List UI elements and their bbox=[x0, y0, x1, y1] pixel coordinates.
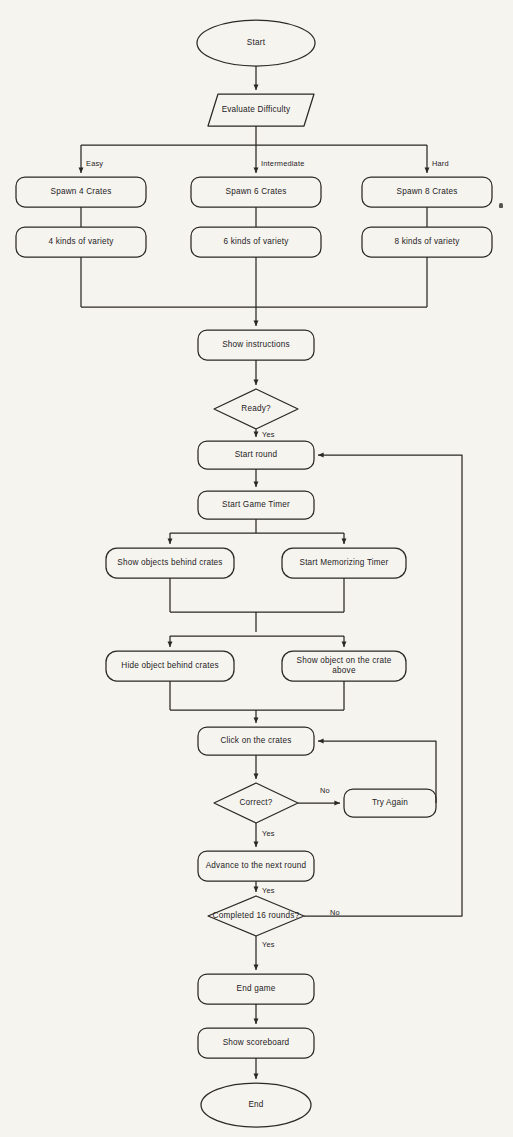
node-shape-correct bbox=[214, 783, 298, 823]
edge-join2 bbox=[170, 681, 344, 710]
node-shape-variety4 bbox=[16, 227, 146, 257]
flowchart-canvas: Start Evaluate Difficulty Spawn 4 Crates… bbox=[0, 0, 513, 1137]
edge-completed-no-loop bbox=[304, 455, 462, 916]
node-shape-scoreboard bbox=[198, 1028, 314, 1058]
node-shape-startround bbox=[198, 441, 314, 469]
edge-gametimer-fork bbox=[170, 519, 344, 533]
edge-tryagain-loop bbox=[318, 741, 436, 803]
scan-artifact-speck bbox=[499, 203, 503, 208]
flowchart-svg bbox=[0, 0, 513, 1137]
edge-label-intermediate: Intermediate bbox=[261, 159, 304, 168]
node-shape-hideobject bbox=[106, 651, 234, 681]
node-shape-click bbox=[198, 727, 314, 755]
node-shape-completed bbox=[208, 896, 304, 936]
node-shape-endgame bbox=[198, 974, 314, 1004]
node-shape-showcrate bbox=[282, 651, 406, 681]
node-shape-variety8 bbox=[362, 227, 492, 257]
edge-label-advance-yes: Yes bbox=[262, 886, 275, 895]
edge-label-completed-no: No bbox=[330, 908, 340, 917]
node-shape-spawn8 bbox=[362, 177, 492, 207]
node-shape-end bbox=[201, 1083, 311, 1127]
node-shape-evaluate bbox=[208, 94, 314, 126]
edge-label-hard: Hard bbox=[432, 159, 449, 168]
node-shape-spawn4 bbox=[16, 177, 146, 207]
node-shape-tryagain bbox=[344, 789, 436, 817]
edge-label-easy: Easy bbox=[86, 159, 103, 168]
edge-label-correct-yes: Yes bbox=[262, 829, 275, 838]
node-shape-variety6 bbox=[191, 227, 321, 257]
node-shape-ready bbox=[214, 389, 298, 429]
node-shape-memtimer bbox=[282, 548, 406, 578]
node-shape-spawn6 bbox=[191, 177, 321, 207]
edge-join1 bbox=[170, 578, 344, 612]
edge-evaluate-split bbox=[81, 126, 427, 145]
node-shape-start bbox=[197, 20, 315, 66]
edge-label-correct-no: No bbox=[320, 786, 330, 795]
edge-label-ready-yes: Yes bbox=[262, 430, 275, 439]
node-shape-showobjects bbox=[106, 548, 234, 578]
node-shape-advance bbox=[198, 851, 314, 881]
edge-label-completed-yes: Yes bbox=[262, 940, 275, 949]
node-shape-instructions bbox=[198, 330, 314, 360]
node-shape-gametimer bbox=[198, 491, 314, 519]
